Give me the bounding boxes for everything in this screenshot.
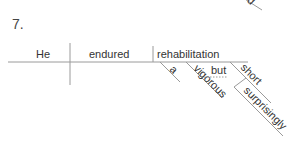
conjunction-word: but <box>211 64 226 76</box>
modifier-a-word: a <box>168 63 181 76</box>
sentence-diagram: d 7. He endured rehabilitation a vigorou… <box>0 0 303 158</box>
adverb-connector-line <box>234 78 246 87</box>
verb-word: endured <box>89 48 129 60</box>
problem-number: 7. <box>12 16 24 32</box>
adverb-word: surprisingly <box>242 84 290 132</box>
object-word: rehabilitation <box>157 48 219 60</box>
subject-word: He <box>36 48 50 60</box>
partial-previous-diagram: d <box>240 0 262 10</box>
